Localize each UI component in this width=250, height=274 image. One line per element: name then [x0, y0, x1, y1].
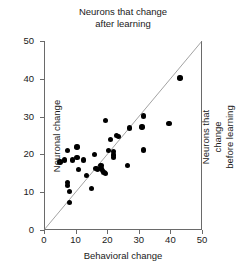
data-point: [141, 147, 146, 152]
data-point: [177, 75, 182, 80]
data-point: [108, 137, 113, 142]
x-tick-label: 0: [41, 235, 46, 245]
scatter-plot-figure: Neurons that change after learning 01020…: [0, 0, 250, 274]
chart-title: Neurons that change after learning: [38, 6, 208, 30]
data-point: [62, 157, 67, 162]
x-axis-label: Behavioral change: [44, 250, 202, 261]
data-point: [116, 134, 121, 139]
data-point: [166, 121, 171, 126]
y-tick-label: 50: [23, 36, 34, 46]
x-tick-label: 20: [102, 235, 113, 245]
data-point: [141, 113, 146, 118]
data-point: [127, 125, 132, 130]
x-tick-label: 10: [70, 235, 81, 245]
data-point: [139, 124, 144, 129]
x-tick-label: 50: [197, 235, 208, 245]
y-tick-label: 0: [29, 225, 34, 235]
x-tick-label: 40: [165, 235, 176, 245]
x-tick-label: 30: [134, 235, 145, 245]
data-point: [67, 189, 72, 194]
y-axis-label: Neuronal change: [51, 99, 62, 171]
y-tick-label: 40: [23, 74, 34, 84]
data-point: [81, 157, 86, 162]
right-axis-label: Neurons that change before learning: [200, 105, 236, 169]
y-tick-label: 30: [23, 112, 34, 122]
y-tick-label: 20: [23, 149, 34, 159]
plot-area: 01020304050 01020304050 Neuronal change …: [44, 41, 202, 230]
y-tick-label: 10: [23, 187, 34, 197]
data-point: [74, 144, 79, 149]
data-point: [74, 155, 79, 160]
